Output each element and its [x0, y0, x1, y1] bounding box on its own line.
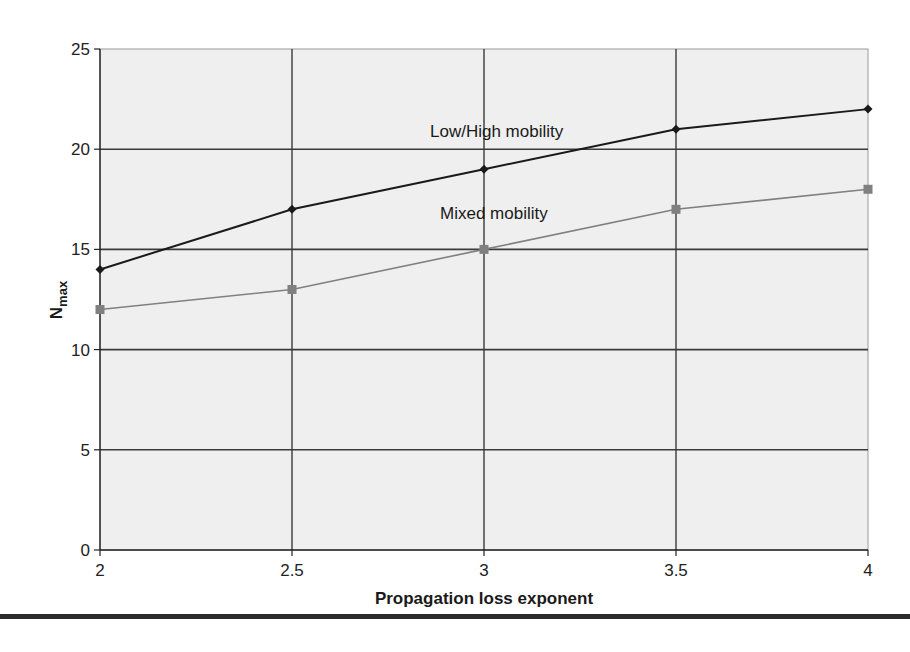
- square-marker: [864, 185, 873, 194]
- y-axis-title-subscript: max: [55, 280, 70, 307]
- y-tick-label: 5: [81, 441, 90, 460]
- line-chart: 0510152025 22.533.54 Low/High mobility M…: [0, 0, 910, 652]
- y-axis-ticks: 0510152025: [71, 40, 100, 560]
- square-marker: [672, 205, 681, 214]
- square-marker: [480, 245, 489, 254]
- y-axis-title: Nmax: [47, 280, 70, 319]
- y-tick-label: 15: [71, 240, 90, 259]
- x-axis-ticks: 22.533.54: [95, 550, 872, 580]
- svg-text:Nmax: Nmax: [47, 280, 70, 319]
- series-label-mixed-mobility: Mixed mobility: [440, 204, 548, 223]
- square-marker: [288, 285, 297, 294]
- square-marker: [96, 305, 105, 314]
- x-tick-label: 3.5: [664, 561, 688, 580]
- x-tick-label: 2: [95, 561, 104, 580]
- y-tick-label: 20: [71, 140, 90, 159]
- x-tick-label: 3: [479, 561, 488, 580]
- series-label-low-high-mobility: Low/High mobility: [430, 122, 564, 141]
- x-tick-label: 2.5: [280, 561, 304, 580]
- x-axis-title: Propagation loss exponent: [375, 589, 594, 608]
- y-tick-label: 25: [71, 40, 90, 59]
- page-rule-divider: [0, 614, 910, 619]
- y-tick-label: 0: [81, 541, 90, 560]
- x-tick-label: 4: [863, 561, 872, 580]
- y-tick-label: 10: [71, 341, 90, 360]
- y-axis-title-main: N: [47, 307, 66, 319]
